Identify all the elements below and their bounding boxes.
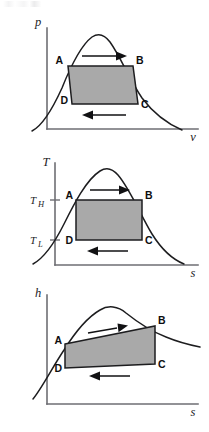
pv-y-axis-label: p	[34, 15, 41, 29]
hs-bottom-process-arrow	[89, 372, 130, 381]
ts-y-axis-label: T	[43, 155, 51, 169]
diagram-canvas: p v A B C D	[0, 0, 209, 432]
ts-tick-label-th: T H	[30, 194, 45, 209]
pv-state-label-c: C	[141, 98, 149, 110]
pv-cycle-region	[68, 66, 138, 104]
ts-tick-label-th-base: T	[30, 194, 37, 206]
ts-state-label-c: C	[145, 234, 153, 246]
ts-x-axis-label: s	[191, 266, 196, 280]
pv-x-axis-label: v	[190, 130, 196, 144]
ts-tick-label-tl-sub: L	[37, 239, 43, 249]
hs-y-axis-label: h	[35, 286, 41, 300]
hs-state-label-d: D	[54, 362, 62, 374]
pv-bottom-process-arrow	[82, 111, 126, 120]
thermodynamic-diagrams-figure: p v A B C D	[0, 0, 209, 432]
ts-state-label-d: D	[65, 234, 73, 246]
ts-cycle-region	[76, 200, 142, 240]
ts-tick-label-th-sub: H	[37, 199, 45, 209]
pv-state-label-b: B	[136, 54, 144, 66]
ts-bottom-process-arrow	[87, 247, 128, 256]
pv-state-label-d: D	[60, 94, 68, 106]
hs-state-label-a: A	[54, 334, 62, 346]
ts-state-label-b: B	[145, 189, 153, 201]
pv-state-label-a: A	[55, 54, 63, 66]
pv-diagram-panel: p v A B C D	[32, 15, 198, 144]
ts-tick-label-tl-base: T	[30, 234, 37, 246]
ts-top-process-arrow	[90, 186, 130, 195]
ts-state-label-a: A	[65, 189, 73, 201]
hs-cycle-region	[65, 326, 155, 368]
hs-state-label-c: C	[158, 358, 166, 370]
ts-tick-label-tl: T L	[30, 234, 43, 249]
hs-diagram-panel: h s A B C D	[33, 286, 200, 419]
hs-x-axis-label: s	[191, 405, 196, 419]
ts-diagram-panel: T s T H T L A B C D	[30, 155, 198, 280]
hs-state-label-b: B	[158, 314, 166, 326]
hs-top-process-arrow	[88, 324, 128, 334]
